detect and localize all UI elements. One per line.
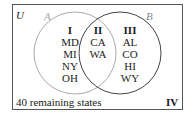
region-i-label: I — [56, 24, 84, 36]
set-a-label: A — [44, 10, 51, 22]
set-b-label: B — [146, 10, 153, 22]
universe-label: U — [16, 9, 24, 21]
region-i-item: OH — [56, 72, 84, 84]
region-ii-item: WA — [85, 48, 111, 60]
region-i-item: MI — [56, 48, 84, 60]
region-ii: II CA WA — [85, 24, 111, 60]
region-iii-item: CO — [116, 48, 144, 60]
region-i-item: NY — [56, 60, 84, 72]
region-iv-text: 40 remaining states — [16, 96, 102, 108]
region-ii-label: II — [85, 24, 111, 36]
region-iv-label: IV — [166, 96, 178, 108]
region-ii-item: CA — [85, 36, 111, 48]
region-iii-item: AL — [116, 36, 144, 48]
region-iii-item: HI — [116, 60, 144, 72]
region-iii-item: WY — [116, 72, 144, 84]
region-iii-label: III — [116, 24, 144, 36]
region-i: I MD MI NY OH — [56, 24, 84, 84]
region-i-item: MD — [56, 36, 84, 48]
region-iii: III AL CO HI WY — [116, 24, 144, 84]
